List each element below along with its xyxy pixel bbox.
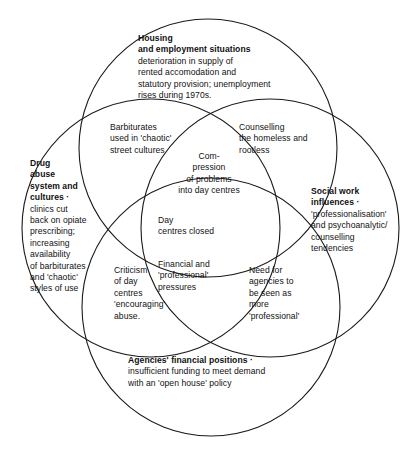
label-housing-body: deterioration in supply of rented accomo… <box>138 56 271 100</box>
label-housing-title: Housing and employment situations <box>138 33 251 54</box>
label-social-title: Social work influences · <box>311 186 359 207</box>
label-agencies-title: Agencies' financial positions · <box>128 355 253 365</box>
label-social-set: Social work influences · 'professionalis… <box>311 186 411 254</box>
label-social-body: 'professionalisation' and psychoanalytic… <box>311 209 387 253</box>
label-intersection-drug-social-agencies: Financial and 'professional' pressures <box>158 259 254 293</box>
label-drug-body: clinics cut back on opiate prescribing; … <box>30 204 87 294</box>
label-intersection-center-all-four: Day centres closed <box>158 215 258 238</box>
label-agencies-set: Agencies' financial positions · insuffic… <box>128 355 308 389</box>
label-drug-title: Drug abuse system and cultures · <box>30 158 78 202</box>
label-agencies-body: insufficient funding to meet demand with… <box>128 366 265 387</box>
label-intersection-social-agencies: Need for agencies to be seen as more 'pr… <box>249 265 327 322</box>
label-housing-set: Housing and employment situations deteri… <box>138 33 318 101</box>
label-intersection-housing-drug-social: Com- pression of problems into day centr… <box>160 151 258 197</box>
label-drug-set: Drug abuse system and cultures · clinics… <box>30 158 116 295</box>
venn-diagram-canvas: Housing and employment situations deteri… <box>0 0 416 453</box>
